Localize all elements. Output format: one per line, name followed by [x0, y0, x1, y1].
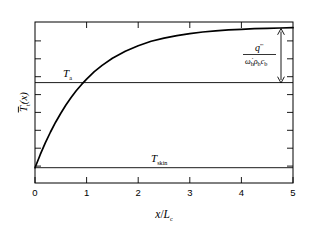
y-axis-argument: (x): [17, 92, 30, 105]
y-axis-title: Tt(x): [17, 92, 31, 113]
perfusion-denominator: ω̇bρbcb: [245, 57, 267, 67]
x-axis-denominator: L: [163, 208, 170, 220]
bioheat-temperature-plot: q''' ω̇bρbcb Ta Tskin 0 1 2 3 4 5 x/Lc T…: [0, 0, 313, 240]
t-a-subscript: a: [69, 74, 72, 81]
x-tick-label: 3: [187, 187, 192, 198]
t-skin-subscript: skin: [157, 159, 167, 166]
svg-text:Tt(x): Tt(x): [17, 92, 31, 112]
x-tick-label: 5: [290, 187, 295, 198]
triple-prime: ''': [260, 42, 263, 49]
figure-background: [0, 0, 313, 240]
x-tick-label: 0: [32, 187, 37, 198]
x-tick-label: 2: [136, 187, 141, 198]
x-axis-denominator-subscript: c: [170, 215, 173, 222]
x-tick-label: 4: [239, 187, 244, 198]
c-subscript: b: [264, 60, 267, 67]
x-tick-label: 1: [84, 187, 89, 198]
